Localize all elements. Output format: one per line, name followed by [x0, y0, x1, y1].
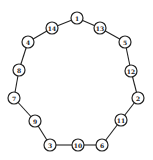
node-12: 12 — [125, 65, 137, 77]
node-3: 3 — [44, 139, 56, 151]
node-label: 2 — [136, 95, 140, 102]
node-label: 6 — [100, 142, 104, 149]
node-label: 10 — [74, 142, 82, 149]
node-label: 7 — [12, 95, 16, 102]
node-8: 8 — [13, 64, 25, 76]
nodes-layer: 1135122116103978414 — [8, 12, 144, 151]
node-label: 13 — [96, 25, 104, 32]
node-5: 5 — [119, 36, 131, 48]
node-label: 14 — [48, 25, 56, 32]
node-label: 3 — [48, 142, 52, 149]
node-label: 9 — [33, 118, 37, 125]
node-1: 1 — [71, 12, 83, 24]
node-label: 5 — [123, 39, 127, 46]
node-label: 12 — [127, 68, 135, 75]
node-label: 4 — [26, 39, 30, 46]
node-14: 14 — [46, 22, 58, 34]
graph-svg: 1135122116103978414 — [0, 0, 153, 160]
node-11: 11 — [115, 114, 127, 126]
node-label: 1 — [75, 15, 79, 22]
node-6: 6 — [96, 139, 108, 151]
node-13: 13 — [94, 22, 106, 34]
node-label: 11 — [117, 117, 125, 124]
cycle-diagram: 1135122116103978414 — [0, 0, 153, 160]
node-7: 7 — [8, 92, 20, 104]
node-9: 9 — [29, 115, 41, 127]
node-10: 10 — [72, 139, 84, 151]
node-4: 4 — [22, 36, 34, 48]
node-label: 8 — [17, 67, 21, 74]
node-2: 2 — [132, 92, 144, 104]
